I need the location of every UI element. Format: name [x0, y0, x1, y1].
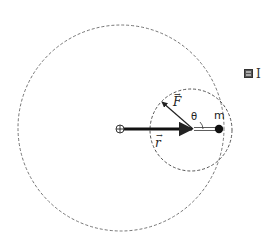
- side-text: I: [256, 67, 261, 81]
- mass-point: [215, 125, 223, 133]
- vector-arrow-icon: →: [156, 132, 163, 140]
- mass-label: m: [214, 110, 225, 121]
- angle-arc: [200, 122, 203, 129]
- vector-arrow-icon: →: [174, 91, 181, 99]
- image-thumbnail-icon: [244, 69, 253, 78]
- angle-theta-label: θ: [191, 112, 197, 122]
- central-force-diagram: [0, 0, 264, 244]
- force-vector-label: → F: [173, 96, 181, 108]
- position-vector-label: → r: [155, 137, 161, 149]
- origin-circled-plus-icon: [116, 125, 124, 133]
